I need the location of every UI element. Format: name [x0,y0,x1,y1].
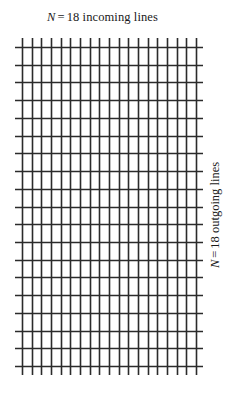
crossbar-grid-figure: N=18 incoming lines N=18 outgoing lines [0,0,239,397]
crossbar-grid-svg [0,0,239,397]
incoming-lines-group [23,38,197,375]
